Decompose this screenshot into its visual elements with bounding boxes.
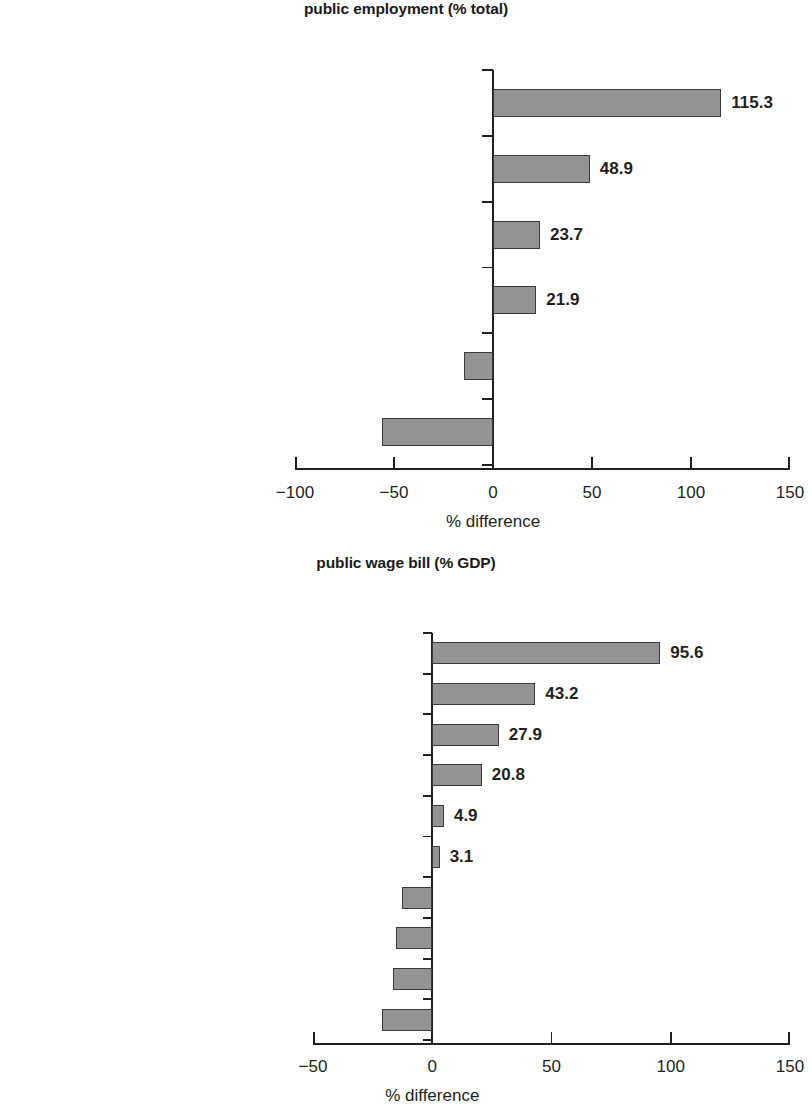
value-axis-line bbox=[295, 468, 790, 470]
axis-tick bbox=[670, 1032, 672, 1043]
bar bbox=[493, 286, 536, 314]
category-tick bbox=[423, 713, 432, 715]
axis-tick-label: 150 bbox=[730, 484, 812, 501]
axis-tick-label: 100 bbox=[611, 1058, 731, 1075]
value-label: 27.9 bbox=[509, 726, 542, 743]
value-label: 43.2 bbox=[545, 685, 578, 702]
axis-tick-label: −50 bbox=[253, 1058, 373, 1075]
category-tick bbox=[423, 632, 432, 634]
axis-tick bbox=[690, 457, 692, 468]
bar bbox=[432, 764, 482, 786]
axis-tick-label: 50 bbox=[492, 1058, 612, 1075]
axis-tick bbox=[591, 457, 593, 468]
category-tick bbox=[482, 332, 493, 334]
axis-tick-label: 150 bbox=[730, 1058, 812, 1075]
bar bbox=[393, 968, 432, 990]
axis-end-cap bbox=[788, 457, 790, 468]
axis-end-cap bbox=[295, 457, 297, 468]
category-tick bbox=[423, 998, 432, 1000]
value-label: 4.9 bbox=[454, 807, 478, 824]
chart-title-2: public wage bill (% GDP) bbox=[0, 554, 812, 572]
bar bbox=[493, 89, 721, 117]
category-tick bbox=[423, 958, 432, 960]
category-tick bbox=[482, 69, 493, 71]
bar bbox=[432, 846, 439, 868]
bar bbox=[382, 1009, 432, 1031]
axis-title: % difference bbox=[87, 512, 812, 532]
chart-panel-public-employment: public employment (% total) Egypt, Arab … bbox=[0, 0, 812, 545]
bar bbox=[396, 927, 432, 949]
chart-title-1: public employment (% total) bbox=[0, 0, 812, 18]
axis-tick bbox=[393, 457, 395, 468]
bar bbox=[493, 155, 590, 183]
category-tick bbox=[423, 876, 432, 878]
bar bbox=[432, 642, 660, 664]
category-tick bbox=[423, 836, 432, 838]
axis-tick bbox=[431, 1032, 433, 1043]
category-tick bbox=[482, 135, 493, 137]
bar bbox=[464, 352, 493, 380]
category-tick bbox=[482, 398, 493, 400]
bar bbox=[402, 887, 432, 909]
value-label: 115.3 bbox=[731, 94, 773, 111]
value-label: 21.9 bbox=[546, 291, 579, 308]
value-label: 3.1 bbox=[450, 848, 474, 865]
category-tick bbox=[423, 754, 432, 756]
category-tick bbox=[482, 201, 493, 203]
bar bbox=[382, 418, 493, 446]
bar bbox=[493, 221, 540, 249]
axis-title: % difference bbox=[26, 1086, 812, 1106]
value-label: 20.8 bbox=[492, 766, 525, 783]
category-tick bbox=[423, 795, 432, 797]
axis-tick bbox=[492, 457, 494, 468]
axis-tick-label: 0 bbox=[372, 1058, 492, 1075]
category-tick bbox=[423, 917, 432, 919]
value-axis-line bbox=[313, 1043, 790, 1045]
value-label: 48.9 bbox=[600, 160, 633, 177]
value-label: 95.6 bbox=[670, 644, 703, 661]
chart-panel-public-wage-bill: public wage bill (% GDP) West Bank and G… bbox=[0, 545, 812, 1115]
category-tick bbox=[482, 267, 493, 269]
bar bbox=[432, 683, 535, 705]
bar bbox=[432, 724, 499, 746]
category-tick bbox=[423, 673, 432, 675]
axis-end-cap bbox=[788, 1032, 790, 1043]
axis-tick bbox=[551, 1032, 553, 1043]
axis-end-cap bbox=[313, 1032, 315, 1043]
bar bbox=[432, 805, 444, 827]
value-label: 23.7 bbox=[550, 226, 583, 243]
